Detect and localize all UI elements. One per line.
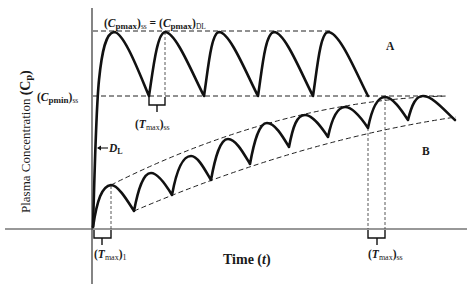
tmax-1-bracket: [94, 230, 111, 245]
tmax-ss-bottom-bracket: [368, 230, 385, 245]
tmax-ss-top-label: (Tmax)ss: [135, 118, 170, 132]
dl-label: DL: [108, 142, 123, 156]
curve-b-label: B: [422, 145, 430, 157]
dl-arrow: [97, 146, 108, 151]
curve-b: [93, 96, 455, 227]
cpmax-label: (Cpmax)ss = (Cpmax)DL: [104, 17, 206, 31]
tmax-ss-top-bracket: [149, 97, 165, 112]
pharmacokinetic-chart: DL (Tmax)ss (Tmax)1 (Tmax)ss (Cpmax)ss =…: [0, 0, 472, 290]
cpmin-label: (Cpmin)ss: [37, 91, 78, 105]
x-axis-label: Time (t): [223, 252, 271, 268]
y-axis-label: Plasma Concentration (Cp): [18, 70, 34, 213]
curve-a-label: A: [386, 40, 395, 52]
tmax-ss-bottom-label: (Tmax)ss: [368, 248, 403, 262]
curve-b-upper-envelope: [111, 96, 448, 185]
tmax-1-label: (Tmax)1: [94, 248, 127, 262]
